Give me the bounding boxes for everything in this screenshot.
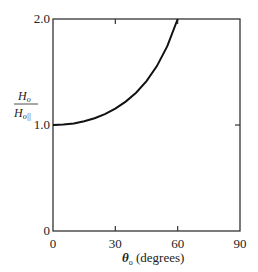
y-tick-label: 2.0 [34, 11, 50, 26]
chart: 030609001.02.0 Ho Ho|| θo (degrees) [0, 0, 258, 272]
x-tick-label: 0 [50, 236, 57, 251]
y-axis-label-numerator: Ho [17, 89, 31, 104]
x-tick-label: 90 [234, 236, 247, 251]
series-line [53, 19, 178, 125]
y-tick-label: 0 [44, 223, 51, 238]
x-tick-label: 30 [109, 236, 122, 251]
x-tick-label: 60 [171, 236, 184, 251]
plot-frame [53, 19, 240, 231]
x-axis-label: θo (degrees) [122, 250, 184, 267]
y-tick-label: 1.0 [34, 117, 50, 132]
y-axis-label-denominator: Ho|| [13, 106, 31, 121]
